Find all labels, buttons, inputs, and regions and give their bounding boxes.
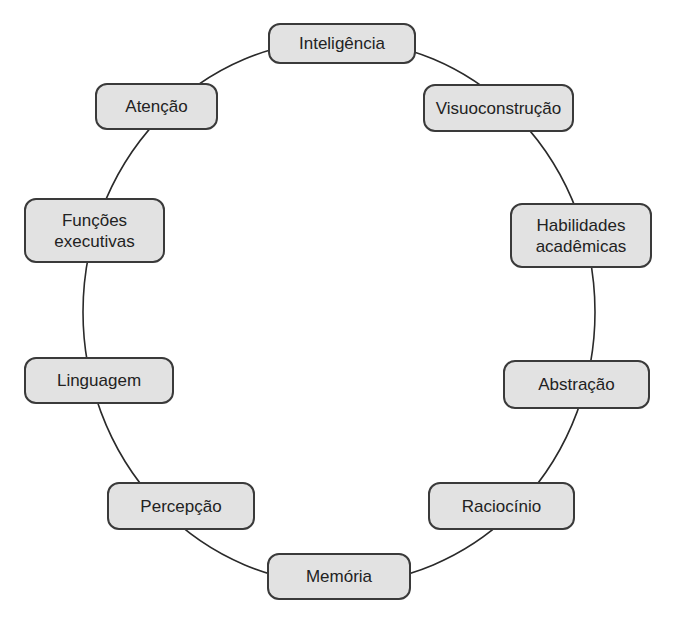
node-funcoes-executivas: Funções executivas <box>24 198 165 263</box>
node-percepcao: Percepção <box>107 482 255 530</box>
node-label: Memória <box>306 566 372 587</box>
node-habilidades-academicas: Habilidades acadêmicas <box>510 203 652 268</box>
node-visuoconstrucao: Visuoconstrução <box>423 84 574 132</box>
node-label: Habilidades acadêmicas <box>536 215 627 257</box>
node-label: Inteligência <box>299 33 385 54</box>
node-atencao: Atenção <box>95 83 218 130</box>
node-inteligencia: Inteligência <box>268 23 416 64</box>
node-linguagem: Linguagem <box>24 357 174 404</box>
concept-diagram: Inteligência Visuoconstrução Habilidades… <box>0 0 679 623</box>
node-abstracao: Abstração <box>503 360 650 409</box>
node-label: Percepção <box>140 496 221 517</box>
node-memoria: Memória <box>267 553 411 600</box>
node-label: Abstração <box>538 374 615 395</box>
node-raciocinio: Raciocínio <box>428 482 575 530</box>
node-label: Raciocínio <box>462 496 541 517</box>
node-label: Linguagem <box>57 370 141 391</box>
node-label: Funções executivas <box>54 210 134 252</box>
node-label: Atenção <box>125 96 187 117</box>
node-label: Visuoconstrução <box>436 98 561 119</box>
